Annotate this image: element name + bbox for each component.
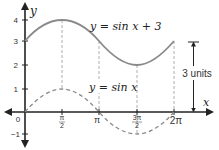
y-tick-3: 3 xyxy=(14,37,19,46)
upper-curve-label: y = sin x + 3 xyxy=(89,20,162,33)
y-axis-label: y xyxy=(29,4,37,18)
x-tick-3pi-half-den: 2 xyxy=(135,122,139,129)
y-tick-1: 1 xyxy=(14,85,19,94)
x-tick-pi: π xyxy=(94,115,100,125)
guide-lines xyxy=(62,20,174,134)
x-tick-3pi-half-num: 3π xyxy=(133,114,142,121)
y-tick-neg1: −1 xyxy=(11,130,21,139)
chart: 3 units y x y = sin x + 3 y = sin x 4 3 … xyxy=(0,0,219,150)
x-tick-2pi: 2π xyxy=(170,115,183,126)
x-axis-label: x xyxy=(203,96,210,109)
y-tick-4: 4 xyxy=(14,16,19,25)
x-tick-pi-half-num: π xyxy=(60,114,65,121)
y-tick-2: 2 xyxy=(14,61,19,70)
origin-label: 0 xyxy=(16,115,21,124)
x-tick-pi-half-den: 2 xyxy=(60,122,64,129)
shift-label: 3 units xyxy=(182,68,211,79)
lower-curve-label: y = sin x xyxy=(88,81,138,94)
